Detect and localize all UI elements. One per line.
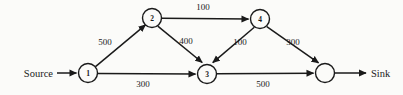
node-2-label: 2 <box>150 14 154 23</box>
node-sink-circle <box>316 64 335 83</box>
diagram-canvas: 1 2 3 4 500 100 400 300 100 300 500 Sour… <box>0 0 403 95</box>
edge-label-node2-node4: 100 <box>196 2 210 12</box>
edge-label-node3-sink: 500 <box>256 79 270 89</box>
edge-label-node2-node3: 400 <box>179 36 193 46</box>
node-1-label: 1 <box>86 69 90 78</box>
edge-label-node1-node3: 300 <box>136 79 150 89</box>
edge-node3-to-sink <box>217 73 314 74</box>
source-label: Source <box>24 68 53 79</box>
network-flow-diagram: 1 2 3 4 500 100 400 300 100 300 500 Sour… <box>0 0 403 95</box>
node-3-label: 3 <box>205 70 209 79</box>
node-4-label: 4 <box>258 15 262 24</box>
edge-node1-to-node3 <box>98 73 196 74</box>
edge-label-node1-node2: 500 <box>98 37 112 47</box>
edge-node2-to-node4 <box>162 18 249 19</box>
edge-label-node4-sink: 300 <box>286 37 300 47</box>
edge-label-node4-node3: 100 <box>233 37 247 47</box>
sink-label: Sink <box>371 68 391 79</box>
